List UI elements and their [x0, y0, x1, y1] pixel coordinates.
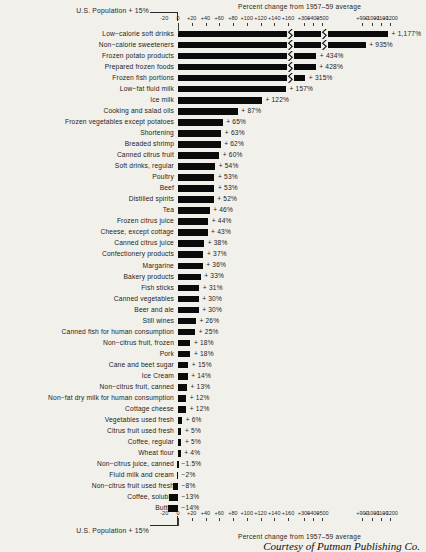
bar-category-label: Prepared frozen foods — [0, 63, 174, 70]
axis-tick-mark — [362, 518, 363, 521]
bar-row: Tea+ 46% — [0, 205, 426, 217]
bar-value-label: + 62% — [224, 140, 244, 147]
bar — [178, 318, 196, 325]
axis-tick-mark — [313, 518, 314, 521]
bar-value-label: −1.5% — [182, 460, 202, 467]
bar-value-label: + 63% — [225, 129, 245, 136]
bar-row: Beef+ 53% — [0, 183, 426, 195]
axis-tick-label: +80 — [228, 510, 237, 516]
axis-tick-mark — [192, 23, 193, 26]
bar-value-label: + 13% — [190, 383, 210, 390]
bar — [178, 340, 190, 347]
bar — [178, 251, 203, 258]
axis-tick-label: +100 — [241, 15, 253, 21]
bar-value-label: + 428% — [319, 63, 343, 70]
axis-tick-mark — [247, 23, 248, 26]
bar-row: Non−calorie sweeteners+ 935% — [0, 40, 426, 52]
bar-value-label: + 6% — [186, 416, 202, 423]
axis-tick-mark — [304, 23, 305, 26]
axis-tick-label: +40 — [201, 510, 210, 516]
bar-category-label: Canned fish for human consumption — [0, 328, 174, 335]
bar-category-label: Non−citrus fruit, canned — [0, 383, 174, 390]
bar-row: Margarine+ 36% — [0, 260, 426, 272]
bar-value-label: + 43% — [211, 228, 231, 235]
axis-tick-mark — [372, 23, 373, 26]
axis-tick-mark — [192, 518, 193, 521]
bar-row: Non−citrus fruit, frozen+ 18% — [0, 338, 426, 350]
bar-row: Frozen potato products+ 434% — [0, 51, 426, 63]
bar — [169, 494, 178, 501]
us-population-reference-bottom: U.S. Population + 15% — [33, 527, 149, 534]
chart-title-top: Percent change from 1957–59 average — [238, 3, 361, 10]
axis-tick-label: +60 — [215, 15, 224, 21]
axis-break-mark — [321, 29, 328, 39]
axis-tick-mark — [372, 518, 373, 521]
bar-value-label: + 18% — [194, 350, 214, 357]
axis-tick-mark — [288, 518, 289, 521]
axis-tick-label: +20 — [187, 510, 196, 516]
bar — [177, 472, 179, 479]
bar — [178, 450, 181, 457]
bar — [178, 130, 221, 137]
axis-tick-mark — [390, 23, 391, 26]
bar-value-label: −13% — [182, 493, 200, 500]
axis-tick-label: 0 — [176, 15, 179, 21]
axis-tick-label: +500 — [316, 510, 328, 516]
bar-row: Confectionery products+ 37% — [0, 249, 426, 261]
bar-value-label: + 87% — [241, 107, 261, 114]
bar-value-label: + 15% — [192, 361, 212, 368]
credit-line: Courtesy of Putman Publishing Co. — [263, 540, 420, 552]
bar-category-label: Poultry — [0, 173, 174, 180]
zero-axis-line — [178, 518, 179, 526]
bar-value-label: + 4% — [184, 449, 200, 456]
bar — [178, 229, 208, 236]
axis-tick-mark — [288, 23, 289, 26]
bar-category-label: Citrus fruit used fresh — [0, 427, 174, 434]
bar-value-label: + 46% — [213, 206, 233, 213]
axis-tick-mark — [322, 23, 323, 26]
bar-row: Citrus fruit used fresh+ 5% — [0, 426, 426, 438]
bar — [178, 119, 223, 126]
bar-row: Ice milk+ 122% — [0, 95, 426, 107]
bar-category-label: Beef — [0, 184, 174, 191]
bar-category-label: Wheat flour — [0, 449, 174, 456]
bar-category-label: Cane and beet sugar — [0, 361, 174, 368]
bar — [178, 240, 204, 247]
bar-value-label: + 157% — [289, 85, 313, 92]
bar — [178, 296, 199, 303]
bar-category-label: Coffee, soluble — [0, 493, 174, 500]
bar — [178, 53, 316, 60]
bar-row: Low−fat fluid milk+ 157% — [0, 84, 426, 96]
bar-value-label: + 52% — [217, 195, 237, 202]
bar-category-label: Vegetables used fresh — [0, 416, 174, 423]
bar-row: Frozen vegetables except potatoes+ 65% — [0, 117, 426, 129]
bar-category-label: Frozen vegetables except potatoes — [0, 118, 174, 125]
bar-value-label: + 18% — [194, 339, 214, 346]
bar-value-label: + 122% — [265, 96, 289, 103]
bar-value-label: + 5% — [185, 427, 201, 434]
bar — [178, 31, 388, 38]
bar-value-label: + 5% — [185, 438, 201, 445]
bar-category-label: Frozen fish portions — [0, 74, 174, 81]
bar — [178, 207, 210, 214]
bar-category-label: Ice milk — [0, 96, 174, 103]
axis-tick-mark — [381, 23, 382, 26]
bar-value-label: + 315% — [309, 74, 333, 81]
bar-category-label: Non−citrus fruit used fresh — [0, 482, 174, 489]
axis-tick-label: +60 — [215, 510, 224, 516]
axis-tick-mark — [304, 518, 305, 521]
bar-value-label: + 60% — [223, 151, 243, 158]
bar-row: Frozen fish portions+ 315% — [0, 73, 426, 85]
bar-category-label: Non−fat dry milk for human consumption — [0, 394, 174, 401]
axis-break-mark — [287, 51, 294, 61]
axis-tick-label: -20 — [160, 15, 168, 21]
bar — [178, 218, 208, 225]
bar — [178, 108, 238, 115]
bar-row: Poultry+ 53% — [0, 172, 426, 184]
bar-category-label: Tea — [0, 206, 174, 213]
us-population-reference-top: U.S. Population + 15% — [33, 7, 149, 14]
bar-row: Shortening+ 63% — [0, 128, 426, 140]
bar — [178, 86, 286, 93]
axis-top: -200+20+40+60+80+100+120+140+160+300+400… — [0, 15, 426, 27]
bar-row: Wheat flour+ 4% — [0, 448, 426, 460]
